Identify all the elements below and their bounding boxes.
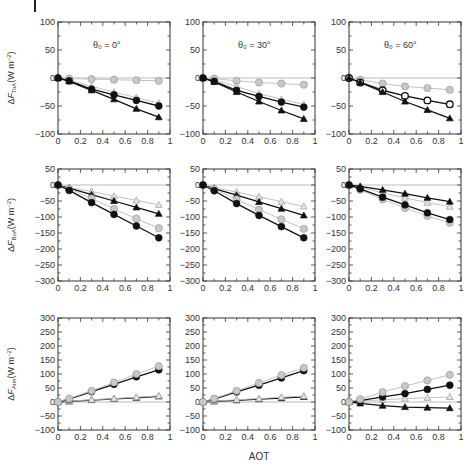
circle-marker	[401, 83, 408, 90]
y-tick-label: −100	[180, 129, 200, 139]
x-tick-label: 0.2	[365, 432, 378, 442]
x-tick-label: 0	[55, 432, 60, 442]
circle-marker	[155, 77, 162, 84]
circle-marker	[446, 382, 453, 389]
circle-marker	[155, 363, 162, 370]
x-tick-label: 0.6	[410, 136, 423, 146]
panel-r1-c2: 00.20.40.60.81−300−250−200−150−100−50050	[326, 164, 464, 293]
x-tick-label: 0.2	[74, 283, 87, 293]
circle-marker	[255, 79, 262, 86]
circle-marker	[446, 371, 453, 378]
y-tick-label: −100	[326, 129, 346, 139]
y-tick-label: 50	[45, 45, 55, 55]
plot-frame	[349, 318, 461, 430]
x-tick-label: 1	[167, 136, 172, 146]
circle-marker	[133, 77, 140, 84]
x-tick-label: 0.2	[219, 432, 232, 442]
panel-r2-c0: 00.20.40.60.81−100−50050100150200250300Δ…	[6, 313, 173, 442]
circle-marker	[447, 101, 454, 108]
circle-marker	[278, 99, 285, 106]
circle-marker	[88, 76, 95, 83]
circle-marker	[155, 225, 162, 232]
y-tick-label: 100	[185, 369, 200, 379]
y-tick-label: 200	[185, 341, 200, 351]
y-tick-label: 50	[190, 383, 200, 393]
circle-marker	[424, 209, 431, 216]
plot-frame	[203, 318, 315, 430]
x-tick-label: 0.4	[388, 283, 401, 293]
x-tick-label: 0.8	[432, 283, 445, 293]
triangle-marker	[155, 392, 162, 398]
y-tick-label: −200	[180, 244, 200, 254]
x-tick-label: 0.8	[286, 283, 299, 293]
x-tick-label: 0.2	[365, 136, 378, 146]
y-tick-label: −50	[185, 411, 200, 421]
x-tick-label: 1	[312, 432, 317, 442]
circle-marker	[110, 379, 117, 386]
circle-marker	[200, 182, 207, 189]
x-tick-label: 0	[346, 283, 351, 293]
x-tick-label: 0.4	[242, 283, 255, 293]
circle-marker	[55, 182, 62, 189]
x-tick-label: 0	[346, 432, 351, 442]
x-tick-label: 0	[346, 136, 351, 146]
y-tick-label: −250	[35, 260, 55, 270]
panel-r0-c1: 00.20.40.60.81−100−50050100θ₀ = 30°	[180, 17, 318, 146]
circle-marker	[379, 194, 386, 201]
series-black-triangle	[346, 75, 454, 121]
circle-marker	[402, 390, 409, 397]
x-tick-label: 1	[458, 136, 463, 146]
figure-3x3-panels: 00.20.40.60.81−100−50050100θ₀ = 0°ΔFToA(…	[0, 0, 475, 467]
sza-annotation: θ₀ = 30°	[238, 40, 271, 50]
y-tick-label: 250	[40, 327, 55, 337]
y-tick-label: 250	[185, 327, 200, 337]
x-tick-label: 0.8	[141, 136, 154, 146]
circle-marker	[133, 215, 140, 222]
circle-marker	[379, 389, 386, 396]
x-tick-label: 0.8	[141, 283, 154, 293]
y-tick-label: 200	[331, 341, 346, 351]
circle-marker	[278, 216, 285, 223]
circle-marker	[446, 86, 453, 93]
x-tick-label: 0.6	[264, 136, 277, 146]
y-tick-label: −100	[35, 212, 55, 222]
y-tick-label: −100	[326, 212, 346, 222]
y-tick-label: −100	[326, 425, 346, 435]
circle-marker	[424, 84, 431, 91]
x-tick-label: 1	[167, 432, 172, 442]
circle-marker	[256, 212, 263, 219]
y-tick-label: −100	[35, 129, 55, 139]
circle-marker	[66, 187, 73, 194]
sza-annotation: θ₀ = 0°	[93, 40, 121, 50]
x-tick-label: 0.2	[74, 136, 87, 146]
y-tick-label: −150	[180, 228, 200, 238]
circle-marker	[401, 382, 408, 389]
y-tick-label: 150	[40, 355, 55, 365]
y-tick-label: −200	[326, 244, 346, 254]
y-tick-label: −50	[331, 101, 346, 111]
x-tick-label: 0.4	[388, 432, 401, 442]
circle-marker	[424, 377, 431, 384]
y-tick-label: −100	[180, 425, 200, 435]
series-black-triangle	[55, 75, 163, 120]
x-tick-label: 0.4	[242, 136, 255, 146]
y-tick-label: −300	[326, 276, 346, 286]
plot-frame	[58, 169, 170, 281]
circle-marker	[345, 398, 352, 405]
circle-marker	[300, 104, 307, 111]
panel-r0-c0: 00.20.40.60.81−100−50050100θ₀ = 0°ΔFToA(…	[6, 17, 173, 146]
x-tick-label: 0.6	[264, 432, 277, 442]
y-tick-label: 300	[331, 313, 346, 323]
y-tick-label: 50	[190, 164, 200, 174]
series-black-circle	[55, 182, 163, 242]
y-tick-label: −300	[180, 276, 200, 286]
x-tick-label: 0.6	[119, 283, 132, 293]
y-tick-label: 100	[40, 17, 55, 27]
panel-r2-c1: 00.20.40.60.81−100−50050100150200250300A…	[180, 313, 318, 462]
y-tick-label: −250	[180, 260, 200, 270]
x-tick-label: 0	[55, 283, 60, 293]
y-tick-label: −100	[35, 425, 55, 435]
x-tick-label: 0.8	[432, 136, 445, 146]
series-gray-circle	[345, 371, 453, 405]
y-tick-label: 100	[331, 369, 346, 379]
